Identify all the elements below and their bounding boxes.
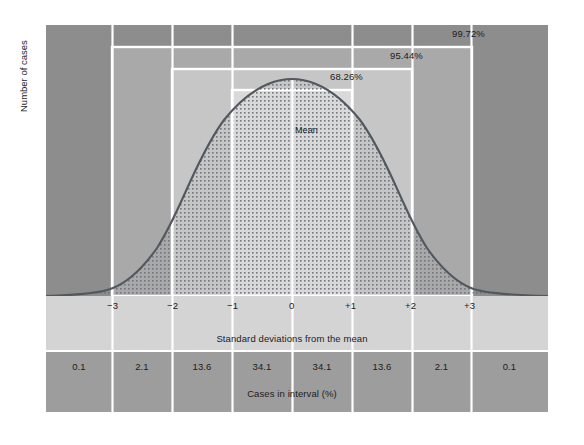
interval-value-6: 2.1 xyxy=(412,361,471,372)
coverage-label-1-sigma: 68.26% xyxy=(330,71,363,82)
x-tick-label-plus-1: +1 xyxy=(345,300,356,311)
interval-value-1: 2.1 xyxy=(112,361,172,372)
x-tick-label-plus-2: +2 xyxy=(405,300,416,311)
interval-value-5: 13.6 xyxy=(352,361,412,372)
x-tick-label-minus-3: −3 xyxy=(107,300,118,311)
x-tick-label-minus-2: −2 xyxy=(167,300,178,311)
interval-value-2: 13.6 xyxy=(172,361,232,372)
interval-caption: Cases in interval (%) xyxy=(0,388,584,399)
normal-distribution-figure: Number of cases xyxy=(0,0,584,445)
interval-value-0: 0.1 xyxy=(46,361,112,372)
coverage-label-2-sigma: 95.44% xyxy=(390,50,423,61)
interval-value-3: 34.1 xyxy=(232,361,292,372)
mean-label: Mean xyxy=(295,125,318,135)
x-axis-caption: Standard deviations from the mean xyxy=(0,333,584,344)
coverage-label-3-sigma: 99.72% xyxy=(452,28,485,39)
x-tick-label-zero: 0 xyxy=(289,300,294,311)
interval-value-7: 0.1 xyxy=(471,361,548,372)
distribution-plot xyxy=(0,0,584,445)
x-tick-label-minus-1: −1 xyxy=(227,300,238,311)
x-tick-label-plus-3: +3 xyxy=(464,300,475,311)
interval-value-4: 34.1 xyxy=(292,361,352,372)
